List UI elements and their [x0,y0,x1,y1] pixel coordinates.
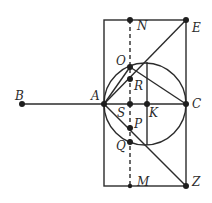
geometry-diagram: B A S K C N E O R P Q M Z [0,0,212,203]
label-B: B [14,89,24,103]
label-O: O [116,54,126,68]
point-C [183,101,189,107]
point-P [127,125,133,131]
label-Z: Z [191,175,201,189]
label-M: M [136,175,150,189]
label-A: A [90,89,100,103]
point-A [101,101,107,107]
label-E: E [191,21,201,35]
label-Q: Q [116,139,126,153]
point-N [127,17,133,23]
point-O [127,64,133,70]
point-S [127,101,133,107]
point-E [183,17,189,23]
label-P: P [133,117,143,131]
label-K: K [148,106,159,120]
label-R: R [133,79,143,93]
point-M [128,184,132,188]
label-N: N [136,19,148,33]
point-Z [183,183,189,189]
point-R [127,76,133,82]
point-Q [127,139,133,145]
label-S: S [117,106,125,120]
label-C: C [192,97,201,111]
